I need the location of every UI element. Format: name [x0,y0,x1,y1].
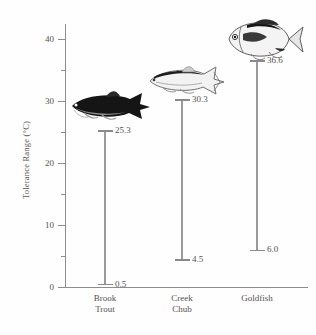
creek-chub-line-2: Chub [135,304,229,315]
y-tick-40 [58,39,66,40]
range-stem-brook-trout [104,130,106,284]
y-tick-label-10: 10 [14,221,54,230]
x-category-label-goldfish: Goldfish [210,293,304,304]
y-tick-label-30: 30 [14,97,54,106]
y-minor-tick-25 [61,132,66,133]
value-label-brook-high: 25.3 [115,126,131,135]
range-stem-creek-chub [181,99,183,259]
chub-fish-icon [142,62,228,98]
trout-fish-icon [62,86,154,126]
goldfish-fish-icon [221,16,307,62]
range-cap-low-brook-trout [98,284,113,286]
y-tick-10 [58,225,66,226]
y-tick-label-0: 0 [14,283,54,292]
value-label-goldfish-low: 6.0 [267,245,278,254]
range-cap-low-creek-chub [175,259,190,261]
y-minor-tick-15 [61,194,66,195]
goldfish-line-1: Goldfish [210,293,304,304]
y-axis-line [65,24,66,288]
range-cap-high-brook-trout [98,130,113,132]
y-tick-label-20: 20 [14,159,54,168]
value-label-chub-low: 4.5 [192,255,203,264]
x-axis-line [65,287,308,288]
y-tick-label-40: 40 [14,35,54,44]
y-tick-20 [58,163,66,164]
range-cap-high-creek-chub [175,99,190,101]
y-tick-0 [58,287,66,288]
range-cap-low-goldfish [250,250,265,252]
chart-figure: Tolerance Range (°C) 0 10 20 30 40 25.3 … [0,0,316,335]
y-minor-tick-35 [61,70,66,71]
range-stem-goldfish [256,60,258,250]
y-minor-tick-5 [61,256,66,257]
value-label-brook-low: 0.5 [115,280,126,289]
